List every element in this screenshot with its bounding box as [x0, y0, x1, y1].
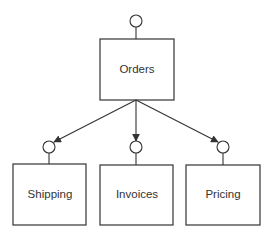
interface-lollipop-icon [217, 141, 229, 153]
node-orders: Orders [100, 15, 174, 100]
node-label: Shipping [28, 188, 73, 200]
node-invoices: Invoices [100, 141, 173, 225]
interface-lollipop-icon [43, 141, 55, 153]
edges [54, 100, 218, 142]
node-label: Invoices [116, 188, 158, 200]
edge-orders-pricing [136, 100, 218, 142]
edge-orders-shipping [54, 100, 136, 142]
component-diagram: Orders Shipping Invoices Pricing [0, 0, 271, 235]
interface-lollipop-icon [130, 141, 142, 153]
node-label: Pricing [205, 188, 240, 200]
interface-lollipop-icon [130, 15, 142, 27]
node-pricing: Pricing [186, 141, 260, 225]
node-label: Orders [119, 63, 154, 75]
node-shipping: Shipping [13, 141, 86, 225]
